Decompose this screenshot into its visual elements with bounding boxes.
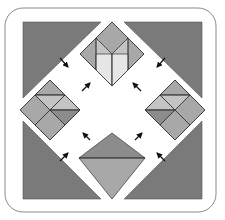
quilt-block-diagram (0, 0, 225, 220)
